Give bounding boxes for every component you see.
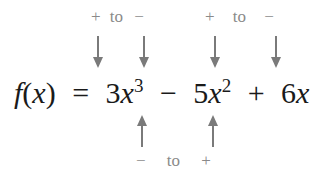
sign-change-label-1: + to − (91, 8, 144, 25)
arrow-up-icon (141, 117, 143, 147)
operator-plus: + (239, 76, 274, 109)
polynomial-equation: f(x) = 3x3 − 5x2 + 6x − 4 (14, 78, 315, 108)
arrow-down-icon (143, 36, 145, 66)
sign-minus: − (134, 7, 144, 26)
arrow-down-icon (214, 36, 216, 66)
arrow-down-icon (275, 36, 277, 66)
arrow-up-icon (212, 117, 214, 147)
to-word: to (110, 7, 123, 26)
to-word: to (167, 151, 180, 170)
equals-sign: = (63, 76, 98, 109)
sign-plus: + (91, 7, 101, 26)
arrow-down-icon (97, 36, 99, 66)
to-word: to (233, 7, 246, 26)
operator-minus: − (151, 76, 186, 109)
function-variable: x (32, 76, 45, 109)
sign-minus: − (264, 7, 274, 26)
sign-change-label-3: − to + (136, 152, 211, 169)
term-2: 5x2 (193, 76, 231, 109)
term-3: 6x (281, 76, 309, 109)
term-1: 3x3 (106, 76, 144, 109)
sign-plus: + (205, 7, 215, 26)
sign-change-label-2: + to − (205, 8, 274, 25)
sign-plus: + (201, 151, 211, 170)
sign-minus: − (136, 151, 146, 170)
